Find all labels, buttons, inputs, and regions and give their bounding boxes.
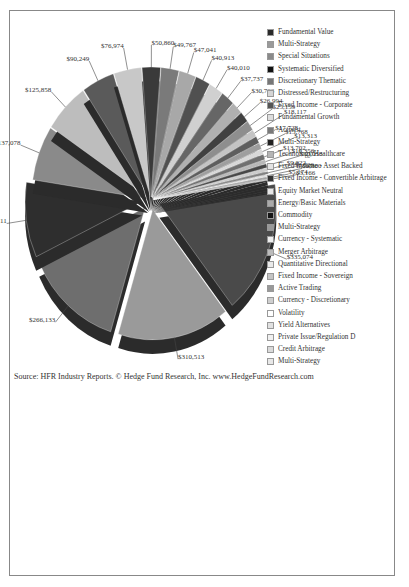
legend-swatch (267, 29, 274, 36)
legend-label: Special Situations (278, 52, 330, 60)
value-label: $187,711 (0, 217, 7, 225)
legend-item: Currency - Discretionary (267, 296, 350, 304)
legend-swatch (267, 322, 274, 329)
legend-item: Fixed Income - Convertible Arbitrage (267, 174, 387, 182)
legend-item: Fundamental Growth (267, 113, 339, 121)
legend-label: Yield Alternatives (278, 321, 330, 329)
legend-item: Energy/Basic Materials (267, 199, 346, 207)
legend-item: Multi-Strategy (267, 40, 320, 48)
legend-label: Fixed Income - Convertible Arbitrage (278, 174, 387, 182)
legend-label: Private Issue/Regulation D (278, 333, 355, 341)
rotated-chart-page: $335,074$310,513$266,133$187,711$137,078… (0, 0, 409, 587)
leader-line (228, 81, 241, 98)
legend-swatch (267, 346, 274, 353)
legend-label: Multi-Strategy (278, 138, 320, 146)
legend-label: Equity Market Neutral (278, 187, 343, 195)
legend-label: Fixed Income - Sovereign (278, 272, 353, 280)
legend-item: Quantitative Directional (267, 260, 348, 268)
value-label: $40,010 (227, 64, 250, 72)
legend-item: Activist (267, 126, 301, 134)
leader-line (51, 92, 65, 107)
legend-swatch (267, 102, 274, 109)
legend-item: Multi-Strategy (267, 223, 320, 231)
value-label: $50,860 (151, 39, 174, 47)
legend-item: Yield Alternatives (267, 321, 330, 329)
legend-label: Merger Arbitrage (278, 248, 328, 256)
legend-swatch (267, 175, 274, 182)
legend-label: Fixed Income - Corporate (278, 101, 352, 109)
legend-label: Systematic Diversified (278, 65, 344, 73)
legend-item: Volatility (267, 309, 305, 317)
legend-label: Currency - Discretionary (278, 296, 350, 304)
legend-label: Fundamental Growth (278, 113, 339, 121)
legend-swatch (267, 200, 274, 207)
legend-swatch (267, 126, 274, 133)
legend-swatch (267, 224, 274, 231)
value-label: $90,249 (66, 55, 89, 63)
legend-swatch (267, 236, 274, 243)
legend-label: Currency - Systematic (278, 235, 342, 243)
leader-line (244, 103, 259, 117)
legend-label: Distressed/Restructuring (278, 89, 349, 97)
legend-label: Technology/Healthcare (278, 150, 345, 158)
leader-line (21, 145, 40, 153)
legend-swatch (267, 53, 274, 60)
leader-line (170, 47, 173, 69)
legend-swatch (267, 248, 274, 255)
legend-item: Merger Arbitrage (267, 248, 328, 256)
legend-label: Multi-Strategy (278, 223, 320, 231)
legend-item: Active Trading (267, 284, 321, 292)
value-label: $310,513 (178, 353, 205, 361)
legend-swatch (267, 187, 274, 194)
value-label: $37,737 (241, 75, 264, 83)
value-label: $137,078 (0, 139, 21, 147)
legend-item: Special Situations (267, 52, 330, 60)
legend-item: Multi-Strategy (267, 138, 320, 146)
value-label: $76,974 (101, 42, 124, 50)
legend-swatch (267, 114, 274, 121)
value-label: $266,133 (29, 316, 56, 324)
legend-item: Discretionary Thematic (267, 77, 346, 85)
legend-item: Credit Arbitrage (267, 345, 325, 353)
legend-item: Fixed Income - Sovereign (267, 272, 353, 280)
legend-item: Technology/Healthcare (267, 150, 345, 158)
legend-label: Energy/Basic Materials (278, 199, 346, 207)
legend-label: Volatility (278, 309, 305, 317)
legend-label: Discretionary Thematic (278, 77, 346, 85)
source-note: Source: HFR Industry Reports. © Hedge Fu… (14, 372, 314, 381)
leader-line (124, 48, 128, 70)
legend-label: Multi-Strategy (278, 40, 320, 48)
leader-line (7, 220, 27, 223)
legend-label: Credit Arbitrage (278, 345, 325, 353)
legend-swatch (267, 261, 274, 268)
legend-swatch (267, 90, 274, 97)
legend-item: Systematic Diversified (267, 65, 344, 73)
legend-label: Activist (278, 126, 301, 134)
legend-item: Fixed Income - Asset Backed (267, 162, 363, 170)
value-label: $47,041 (194, 46, 217, 54)
legend-swatch (267, 285, 274, 292)
leader-line (216, 70, 227, 88)
legend-label: Commodity (278, 211, 312, 219)
value-label: $125,858 (25, 86, 52, 94)
legend-swatch (267, 65, 274, 72)
legend-swatch (267, 334, 274, 341)
legend-swatch (267, 163, 274, 170)
legend-item: Fundamental Value (267, 28, 334, 36)
legend-item: Commodity (267, 211, 312, 219)
legend-swatch (267, 273, 274, 280)
legend-label: Active Trading (278, 284, 321, 292)
legend-label: Quantitative Directional (278, 260, 348, 268)
legend-swatch (267, 297, 274, 304)
value-label: $40,913 (212, 54, 235, 62)
legend-swatch (267, 309, 274, 316)
legend-swatch (267, 41, 274, 48)
legend-swatch (267, 151, 274, 158)
legend-label: Fixed Income - Asset Backed (278, 162, 363, 170)
leader-line (188, 52, 194, 73)
legend-swatch (267, 358, 274, 365)
legend-swatch (267, 78, 274, 85)
leader-line (237, 93, 251, 108)
legend-item: Equity Market Neutral (267, 187, 343, 195)
legend-item: Fixed Income - Corporate (267, 101, 352, 109)
